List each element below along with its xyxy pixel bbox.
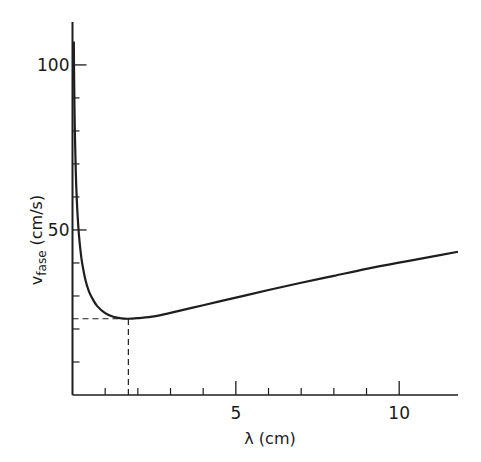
plot-area xyxy=(73,41,459,395)
y-axis-title-subscript: fase xyxy=(35,250,49,275)
phase-velocity-chart: 51050100λ (cm)vfase(cm/s) xyxy=(0,0,481,462)
axes xyxy=(73,22,459,395)
x-tick-label: 5 xyxy=(230,403,241,423)
phase-velocity-curve xyxy=(74,41,458,318)
y-axis-title-main: v xyxy=(27,276,46,285)
y-axis-title-unit: (cm/s) xyxy=(27,195,46,246)
x-tick-label: 10 xyxy=(388,403,410,423)
axis-labels: 51050100λ (cm)vfase(cm/s) xyxy=(27,55,410,448)
y-axis-title: vfase(cm/s) xyxy=(27,195,49,285)
y-tick-label: 100 xyxy=(37,55,69,75)
x-axis-title: λ (cm) xyxy=(244,429,295,448)
y-tick-label: 50 xyxy=(48,220,70,240)
